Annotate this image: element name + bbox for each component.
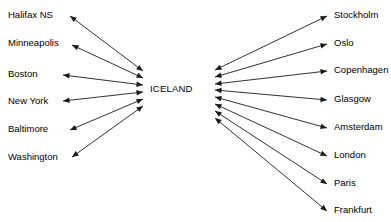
route-diagram: Halifax NSMinneapolisBostonNew YorkBalti… (0, 0, 391, 222)
city-label-copenhagen: Copenhagen (334, 65, 388, 75)
arrowhead (320, 178, 327, 184)
city-label-stockholm: Stockholm (334, 10, 378, 20)
arrowhead (136, 106, 143, 112)
route-line (70, 16, 143, 71)
route-line (70, 99, 143, 130)
city-label-london: London (334, 150, 366, 160)
hub-label: ICELAND (150, 84, 193, 94)
route-line (215, 118, 327, 211)
city-label-washington: Washington (8, 152, 58, 162)
left-route-group (63, 16, 143, 157)
arrowhead (215, 81, 222, 86)
arrowhead (320, 69, 327, 74)
arrowhead (72, 151, 79, 157)
route-line (215, 97, 327, 128)
city-label-oslo: Oslo (334, 38, 354, 48)
route-line (215, 71, 327, 84)
route-lines-svg (0, 0, 391, 222)
arrowhead (320, 124, 327, 129)
arrowhead (63, 73, 70, 78)
city-label-paris: Paris (334, 178, 356, 188)
route-line (215, 104, 327, 156)
arrowhead (136, 90, 143, 95)
route-line (72, 45, 143, 78)
city-label-halifax-ns: Halifax NS (8, 10, 53, 20)
arrowhead (320, 97, 327, 102)
arrowhead (215, 96, 222, 101)
route-line (63, 75, 143, 85)
arrowhead (320, 43, 327, 48)
route-line (215, 111, 327, 184)
city-label-amsterdam: Amsterdam (334, 122, 383, 132)
arrowhead (136, 65, 143, 71)
route-line (215, 44, 327, 77)
city-label-minneapolis: Minneapolis (8, 38, 59, 48)
city-label-boston: Boston (8, 69, 38, 79)
arrowhead (63, 98, 70, 103)
city-label-new-york: New York (8, 96, 48, 106)
arrowhead (136, 81, 143, 86)
route-line (215, 16, 327, 70)
right-route-group (215, 16, 327, 211)
route-line (63, 92, 143, 101)
city-label-glasgow: Glasgow (334, 94, 371, 104)
arrowhead (215, 111, 222, 117)
city-label-baltimore: Baltimore (8, 124, 48, 134)
arrowhead (215, 73, 222, 78)
city-label-frankfurt: Frankfurt (334, 205, 372, 215)
arrowhead (215, 88, 222, 93)
arrowhead (70, 16, 77, 22)
route-line (215, 90, 327, 100)
